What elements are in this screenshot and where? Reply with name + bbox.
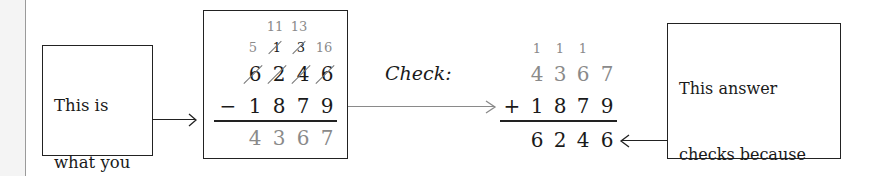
sum-digit: 6 [597,130,617,150]
carry-digit: 1 [550,42,570,55]
sum-digit: 6 [527,130,547,150]
right-note-line: This answer [679,78,806,100]
minuend-digit: 6 [317,64,337,84]
subtrahend-digit: 9 [317,96,337,116]
addend-top-digit: 6 [573,64,593,84]
subtraction-rule [214,120,337,122]
difference-digit: 4 [245,128,265,148]
addition-rule [500,120,617,122]
left-note-line: This is [54,96,130,115]
right-note-text: This answer checks because this is the t… [679,34,806,176]
margin-rule [25,0,26,176]
sum-digit: 4 [573,130,593,150]
difference-digit: 7 [317,128,337,148]
arrowhead-right-icon [485,100,497,114]
arrowhead-right-icon [188,113,198,127]
left-note-line: what you [54,153,130,172]
addend-top-digit: 3 [550,64,570,84]
subtrahend-digit: 7 [293,96,313,116]
arrowhead-left-icon [620,134,630,148]
carry-digit: 1 [573,42,593,55]
addend-bottom-digit: 1 [527,96,547,116]
subtrahend-digit: 1 [245,96,265,116]
borrow-digit: 11 [264,20,286,33]
check-label: Check: [385,62,452,84]
borrow-digit: 13 [288,20,310,33]
addend-bottom-digit: 9 [597,96,617,116]
minuend-digit: 6 [245,64,265,84]
addend-top-digit: 7 [597,64,617,84]
minuend-digit: 4 [293,64,313,84]
carry-digit: 1 [527,42,547,55]
addend-bottom-digit: 7 [573,96,593,116]
left-note-text: This is what you should write. [54,58,130,176]
difference-digit: 3 [269,128,289,148]
right-note-box: This answer checks because this is the t… [667,23,841,159]
addend-bottom-digit: 8 [550,96,570,116]
borrow-digit: 16 [313,41,335,54]
plus-sign: + [502,96,522,116]
minuend-digit: 2 [269,64,289,84]
right-note-line: checks because [679,144,806,166]
left-note-box: This is what you should write. [42,45,153,156]
addend-top-digit: 4 [527,64,547,84]
subtrahend-digit: 8 [269,96,289,116]
sum-digit: 2 [550,130,570,150]
difference-digit: 6 [293,128,313,148]
minus-sign: − [218,96,238,116]
borrow-digit: 5 [243,41,263,54]
page-margin [0,0,25,176]
arrow-subtraction-to-check [348,106,495,107]
